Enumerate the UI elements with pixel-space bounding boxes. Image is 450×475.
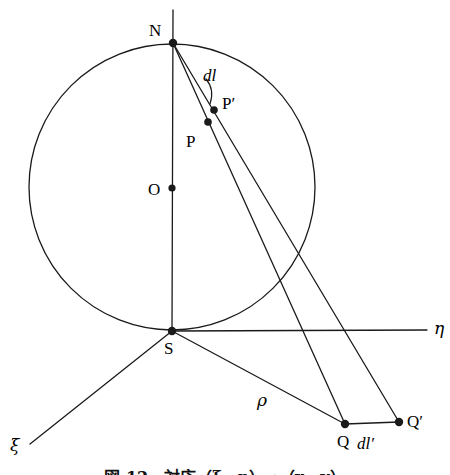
annotation-label-eta: η (434, 320, 444, 337)
segment-Q-to-Qprime (345, 422, 399, 424)
point-label-S: S (164, 340, 173, 357)
figure-caption: 図 12 対応（ξ、η）→（x、y） (0, 464, 450, 475)
point-dot-O (168, 184, 175, 191)
ray-N-to-Q (173, 43, 345, 424)
point-dot-Q (341, 420, 349, 428)
eta-axis (172, 330, 427, 331)
point-label-P: P (186, 133, 195, 150)
point-label-Qp: Q′ (407, 413, 423, 430)
point-dot-N (169, 39, 177, 47)
annotation-label-dlp: dl′ (357, 435, 374, 452)
polar-axis (172, 10, 173, 331)
point-dot-Qp (395, 418, 403, 426)
figure-container: NOPP′SQQ′dldl′ρηξ 図 12 対応（ξ、η）→（x、y） (0, 0, 450, 475)
point-label-O: O (148, 181, 160, 198)
point-label-N: N (149, 22, 161, 39)
annotation-label-dl: dl (203, 67, 216, 84)
geometry-diagram (0, 0, 450, 475)
rho-ray-S-to-Q (172, 331, 345, 424)
point-dot-S (168, 327, 176, 335)
point-dot-P (204, 118, 212, 126)
xi-axis (30, 331, 172, 444)
point-label-Q: Q (337, 433, 349, 450)
annotation-label-rho: ρ (257, 392, 267, 409)
point-dot-Pp (210, 106, 218, 114)
lines-group (30, 10, 427, 444)
point-label-Pp: P′ (222, 95, 235, 112)
figure-caption-strip: 図 12 対応（ξ、η）→（x、y） (0, 464, 450, 475)
annotation-label-xi: ξ (10, 437, 19, 454)
